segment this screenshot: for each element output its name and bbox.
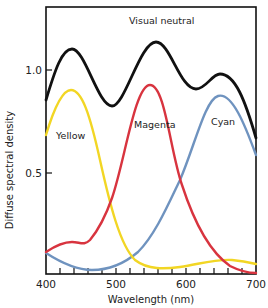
label-visual-neutral: Visual neutral bbox=[129, 15, 194, 26]
x-tick-500: 500 bbox=[106, 278, 126, 290]
x-tick-700: 700 bbox=[246, 278, 266, 290]
label-yellow: Yellow bbox=[55, 130, 85, 141]
x-tick-400: 400 bbox=[36, 278, 56, 290]
label-magenta: Magenta bbox=[134, 119, 175, 130]
label-cyan: Cyan bbox=[211, 116, 235, 127]
spectral-density-chart: Visual neutral Yellow Magenta Cyan 1.0 0… bbox=[0, 0, 268, 308]
curve-magenta bbox=[46, 85, 256, 273]
x-axis-title: Wavelength (nm) bbox=[108, 294, 194, 305]
y-tick-1-0: 1.0 bbox=[25, 64, 42, 76]
y-axis-title: Diffuse spectral density bbox=[4, 111, 15, 229]
x-tick-600: 600 bbox=[176, 278, 196, 290]
y-tick-0-5: 0.5 bbox=[25, 167, 42, 179]
